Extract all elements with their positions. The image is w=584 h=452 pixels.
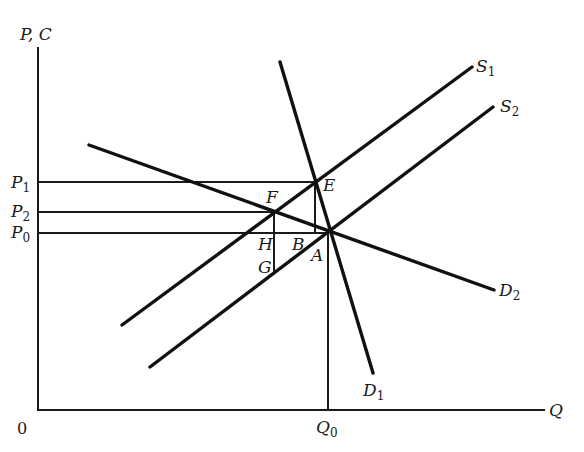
point-b-label: B [291, 234, 305, 254]
q0-main: Q [316, 417, 330, 437]
supply-curve-s1 [122, 67, 472, 325]
x-axis-label: Q [549, 400, 563, 420]
s1-main: S [476, 56, 488, 76]
s2-label: S2 [500, 96, 519, 119]
s1-label: S1 [476, 56, 495, 79]
p0-main: P [10, 222, 23, 242]
s2-main: S [500, 96, 512, 116]
point-g-label: G [258, 257, 272, 277]
d1-label: D1 [362, 380, 384, 403]
supply-curve-s2 [150, 107, 493, 367]
q0-label: Q0 [316, 417, 338, 440]
d1-sub: 1 [377, 389, 385, 403]
origin-label: 0 [17, 419, 27, 438]
p2-sub: 2 [22, 210, 30, 224]
point-a-label: A [309, 245, 323, 265]
y-axis-label: P, C [19, 24, 52, 44]
p0-sub: 0 [22, 231, 30, 245]
d1-main: D [362, 380, 377, 400]
demand-curve-d2 [89, 145, 494, 290]
d2-label: D2 [498, 280, 520, 303]
p2-main: P [10, 201, 23, 221]
s2-sub: 2 [512, 105, 520, 119]
p1-sub: 1 [22, 181, 30, 195]
supply-demand-diagram: P, C Q 0 P1 P2 P0 Q0 S1 S2 D1 D2 E F H G… [0, 0, 584, 452]
d2-main: D [498, 280, 513, 300]
p1-main: P [10, 172, 23, 192]
d2-sub: 2 [513, 289, 521, 303]
p1-label: P1 [10, 172, 30, 195]
q0-sub: 0 [330, 426, 338, 440]
p2-label: P2 [10, 201, 30, 224]
point-e-label: E [322, 175, 336, 195]
point-h-label: H [257, 234, 274, 254]
s1-sub: 1 [488, 65, 496, 79]
point-f-label: F [265, 187, 279, 207]
p0-label: P0 [10, 222, 30, 245]
